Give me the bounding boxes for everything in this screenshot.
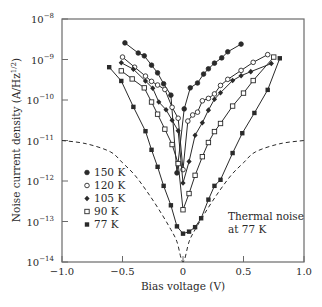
marker-filled-square: [187, 229, 191, 233]
marker-filled-circle: [201, 72, 206, 77]
marker-filled-circle: [225, 50, 230, 55]
y-axis-title: Noise current density (A/Hz1/2): [10, 58, 22, 222]
marker-filled-circle: [169, 93, 174, 98]
thermal-noise-annotation-line1: Thermal noise: [228, 210, 304, 222]
marker-open-square: [142, 86, 146, 90]
legend-label: 150 K: [94, 166, 125, 178]
marker-filled-diamond: [170, 117, 175, 123]
marker-filled-diamond: [186, 159, 191, 165]
y-tick-label: 10−12: [26, 174, 54, 187]
marker-open-circle: [200, 99, 205, 104]
marker-filled-square: [149, 148, 153, 152]
marker-open-circle: [186, 119, 191, 124]
thermal-noise-annotation-line2: at 77 K: [228, 223, 267, 235]
marker-open-square: [149, 100, 153, 104]
marker-open-circle: [195, 110, 200, 115]
marker-open-square: [251, 78, 255, 82]
marker-filled-square: [161, 184, 165, 188]
y-tick-label: 10−10: [26, 93, 54, 106]
marker-open-square: [155, 112, 159, 116]
marker-filled-square: [230, 151, 234, 155]
marker-open-square: [170, 142, 174, 146]
marker-filled-diamond: [84, 196, 89, 202]
marker-filled-circle: [206, 67, 211, 72]
legend: 150 K120 K105 K90 K77 K: [84, 166, 125, 230]
marker-open-square: [218, 121, 222, 125]
marker-open-square: [212, 129, 216, 133]
marker-filled-circle: [188, 86, 193, 91]
marker-open-circle: [155, 83, 160, 88]
marker-filled-circle: [123, 41, 128, 46]
legend-label: 105 K: [94, 192, 125, 204]
marker-filled-diamond: [119, 60, 124, 66]
y-axis-title-close: ): [10, 58, 22, 62]
marker-open-square: [272, 55, 276, 59]
x-tick-label: −1.0: [50, 266, 74, 277]
legend-item: 150 K: [85, 166, 126, 178]
legend-label: 120 K: [94, 179, 125, 191]
marker-open-square: [200, 155, 204, 159]
x-tick-label: 0.5: [236, 266, 252, 277]
marker-filled-square: [218, 178, 222, 182]
marker-filled-circle: [195, 81, 200, 86]
marker-filled-diamond: [248, 69, 253, 75]
marker-filled-square: [278, 56, 282, 60]
legend-item: 120 K: [85, 179, 126, 191]
marker-open-square: [181, 208, 185, 212]
x-axis-title: Bias voltage (V): [141, 280, 225, 292]
marker-open-square: [85, 209, 89, 213]
series-120-k: [120, 52, 270, 172]
x-tick-label: 0: [180, 266, 186, 277]
x-axis-ticks: −1.0−0.500.51.0: [50, 256, 312, 277]
marker-open-circle: [85, 183, 90, 188]
marker-open-circle: [218, 83, 223, 88]
marker-open-square: [163, 127, 167, 131]
marker-filled-circle: [212, 61, 217, 66]
marker-open-circle: [251, 60, 256, 65]
marker-filled-square: [119, 79, 123, 83]
marker-filled-circle: [149, 63, 154, 68]
marker-filled-diamond: [238, 73, 243, 79]
marker-filled-square: [252, 111, 256, 115]
marker-filled-square: [266, 88, 270, 92]
marker-open-square: [230, 104, 234, 108]
legend-label: 90 K: [94, 205, 119, 217]
y-tick-label: 10−8: [31, 12, 54, 25]
marker-open-circle: [212, 92, 217, 97]
y-tick-label: 10−13: [26, 215, 54, 228]
marker-filled-square: [240, 131, 244, 135]
marker-filled-circle: [85, 170, 90, 175]
marker-open-circle: [239, 68, 244, 73]
x-tick-label: −0.5: [110, 266, 134, 277]
marker-open-circle: [170, 105, 175, 110]
marker-filled-square: [169, 203, 173, 207]
marker-filled-diamond: [180, 180, 185, 186]
marker-open-circle: [225, 77, 230, 82]
marker-filled-circle: [142, 54, 147, 59]
marker-filled-square: [212, 184, 216, 188]
marker-open-circle: [143, 74, 148, 79]
marker-open-square: [241, 91, 245, 95]
marker-open-circle: [190, 113, 195, 118]
marker-filled-square: [155, 165, 159, 169]
marker-open-circle: [265, 52, 270, 57]
marker-filled-square: [175, 224, 179, 228]
legend-label: 77 K: [94, 218, 119, 230]
marker-filled-diamond: [193, 132, 198, 138]
marker-filled-square: [107, 65, 111, 69]
marker-open-square: [187, 191, 191, 195]
marker-filled-circle: [161, 82, 166, 87]
marker-filled-circle: [136, 51, 141, 56]
legend-item: 90 K: [85, 205, 119, 217]
marker-filled-diamond: [206, 107, 211, 113]
x-tick-label: 1.0: [296, 266, 312, 277]
marker-filled-circle: [219, 56, 224, 61]
marker-open-circle: [176, 116, 181, 121]
marker-open-square: [206, 140, 210, 144]
legend-item: 105 K: [84, 192, 125, 204]
marker-open-circle: [149, 79, 154, 84]
marker-open-circle: [163, 87, 168, 92]
marker-filled-diamond: [200, 120, 205, 126]
y-tick-label: 10−9: [31, 53, 54, 66]
series-150-k: [123, 41, 244, 176]
